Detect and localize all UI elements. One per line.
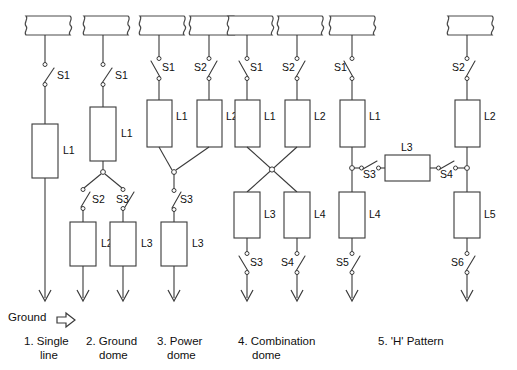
busbar-5b (447, 16, 494, 35)
terminal-top-s2-4 (295, 57, 299, 61)
switch-blade-s2-4[interactable] (296, 61, 305, 77)
load-box-l3-4 (234, 192, 260, 238)
load-box-l4-4 (284, 192, 310, 238)
busbar-4b (277, 16, 324, 35)
terminal-top-s1-5 (350, 57, 354, 61)
switch-label-s3-3: S3 (180, 193, 193, 205)
caption-3-line1: 3. Power (157, 335, 203, 347)
busbar-3a (139, 16, 186, 35)
terminal-right-s3-5 (377, 166, 381, 170)
load-label-l3-5: L3 (401, 141, 413, 153)
terminal-right-s4-5 (454, 166, 458, 170)
load-label-l4-4: L4 (314, 208, 326, 220)
terminal-top-s1-3 (157, 57, 161, 61)
busbar-4a (227, 16, 274, 35)
switch-label-s1-2: S1 (115, 69, 128, 81)
diagram-canvas: S1 L1 S1 L1 S2 L2 (0, 0, 517, 370)
terminal-bottom-s2-3 (207, 77, 211, 81)
terminal-top-s2-3 (207, 57, 211, 61)
switch-label-s4-4: S4 (281, 256, 294, 268)
terminal-bottom-s6-5 (465, 271, 469, 275)
switch-label-s2-2: S2 (92, 193, 105, 205)
switch-label-s2-3: S2 (194, 61, 207, 73)
junction-node-3 (172, 170, 177, 175)
switch-blade-s2-2[interactable] (81, 192, 90, 207)
switch-blade-s2-3[interactable] (208, 61, 217, 77)
terminal-bottom-s1 (43, 83, 47, 87)
ground-legend-label: Ground (8, 311, 46, 323)
load-box-l4-5 (339, 192, 365, 238)
load-box-l3-3 (161, 222, 187, 266)
terminal-top-s4-4 (295, 252, 299, 256)
switch-blade-s1[interactable] (44, 68, 54, 83)
load-box-l1-3 (147, 100, 172, 147)
caption-4-line2: dome (252, 349, 281, 361)
load-label-l4-5: L4 (369, 208, 381, 220)
load-label-l3-2: L3 (141, 237, 153, 249)
switch-blade-s4-4[interactable] (296, 256, 305, 271)
terminal-bottom-s3-2 (121, 207, 125, 211)
caption-1-line1: 1. Single (24, 335, 69, 347)
terminal-bottom-s2-2 (81, 207, 85, 211)
load-label-l3-4: L3 (264, 208, 276, 220)
wire-node-right-2 (105, 174, 122, 188)
terminal-bottom-s1-3 (157, 77, 161, 81)
busbar-1 (25, 16, 72, 35)
wire-node-left-2 (84, 174, 101, 188)
switch-label-s3-4: S3 (250, 256, 263, 268)
switch-label-s6-5: S6 (451, 256, 464, 268)
switch-label-s2-4: S2 (282, 61, 295, 73)
switch-label-s1-4: S1 (250, 61, 263, 73)
wire-l2-to-node-3 (176, 147, 209, 170)
switch-label-s1: S1 (57, 69, 70, 81)
switch-blade-s6-5[interactable] (466, 256, 475, 271)
load-label-l2-4: L2 (314, 110, 326, 122)
switch-blade-s1-3[interactable] (151, 61, 160, 77)
scheme-ground-dome: S1 L1 S2 L2 S3 L3 (70, 16, 153, 301)
terminal-bottom-s2-5 (465, 77, 469, 81)
terminal-top-s1-4 (245, 57, 249, 61)
load-box-l5-5 (454, 192, 480, 238)
switch-blade-s2-5[interactable] (466, 61, 475, 77)
load-box-l3-5 (385, 155, 430, 181)
scheme-combination-dome: S1 L1 S2 L2 L3 S3 L4 S4 (227, 16, 326, 301)
crossing-node-4 (269, 167, 274, 172)
tie-node-left-5 (350, 166, 355, 171)
circuit-diagram: S1 L1 S1 L1 S2 L2 (0, 0, 517, 370)
terminal-top-s5-5 (350, 252, 354, 256)
terminal-bottom-s5-5 (350, 271, 354, 275)
caption-row: 1. Single line 2. Ground dome 3. Power d… (24, 335, 444, 361)
switch-blade-s1-2[interactable] (102, 68, 112, 83)
load-box-l2-2 (70, 222, 96, 266)
busbar-5a (329, 16, 376, 35)
ground-legend: Ground (8, 311, 75, 327)
switch-blade-s1-4[interactable] (239, 61, 248, 77)
load-box-l2-5 (455, 100, 480, 147)
load-box-l2-4 (285, 100, 310, 147)
caption-1-line2: line (40, 349, 58, 361)
load-box-l1-2 (90, 107, 116, 161)
right-arrow-outline-icon (57, 313, 75, 327)
caption-3-line2: dome (167, 349, 196, 361)
load-label-l1-2: L1 (121, 127, 133, 139)
terminal-top-s1 (43, 63, 47, 67)
terminal-top-s3-3 (172, 189, 176, 193)
terminal-bottom-s1-4 (245, 77, 249, 81)
scheme-power-dome: S1 L1 S2 L2 S3 L3 (139, 16, 238, 301)
caption-5-line1: 5. 'H' Pattern (378, 335, 444, 347)
junction-node-2 (101, 170, 106, 175)
caption-2-line2: dome (99, 349, 128, 361)
terminal-bottom-s1-5 (350, 77, 354, 81)
switch-label-s2-5: S2 (452, 61, 465, 73)
terminal-bottom-s4-4 (295, 271, 299, 275)
switch-label-s4-5: S4 (440, 168, 453, 180)
terminal-top-s6-5 (465, 252, 469, 256)
terminal-bottom-s1-2 (101, 83, 105, 87)
switch-blade-s3-4[interactable] (239, 256, 248, 271)
wire-l1-to-node-3 (159, 147, 172, 170)
switch-label-s3-2: S3 (116, 193, 129, 205)
switch-blade-s5-5[interactable] (351, 256, 360, 271)
load-label-l5-5: L5 (484, 208, 496, 220)
terminal-top-s3-2 (121, 188, 125, 192)
load-label-l1-4: L1 (264, 110, 276, 122)
